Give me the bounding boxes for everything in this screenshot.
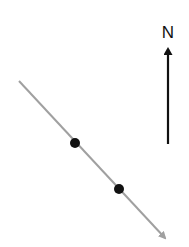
diagram-canvas: N <box>0 0 189 247</box>
trajectory-line <box>19 81 165 238</box>
trajectory-point-1 <box>70 138 80 148</box>
trajectory-point-2 <box>114 184 124 194</box>
north-label: N <box>162 23 174 42</box>
